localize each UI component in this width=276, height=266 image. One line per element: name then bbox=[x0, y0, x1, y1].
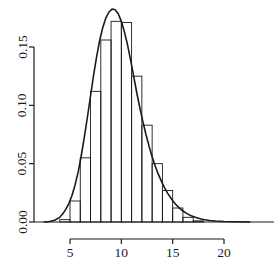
density-curve bbox=[44, 9, 249, 222]
x-axis-tick-label: 10 bbox=[115, 245, 129, 260]
histogram-bar bbox=[183, 217, 193, 222]
y-axis-tick-label: 0.15 bbox=[15, 35, 30, 59]
histogram-bar bbox=[162, 191, 172, 223]
x-axis: 5101520 bbox=[67, 239, 231, 260]
x-axis-tick-label: 20 bbox=[217, 245, 231, 260]
histogram-bar bbox=[121, 23, 131, 223]
histogram-density-plot: 0.000.050.100.155101520 bbox=[0, 0, 276, 266]
histogram-bar bbox=[60, 220, 70, 222]
histogram-bar bbox=[91, 91, 101, 222]
x-axis-tick-label: 15 bbox=[166, 245, 180, 260]
histogram-bar bbox=[111, 21, 121, 222]
histogram-bar bbox=[80, 158, 90, 222]
x-axis-tick-label: 5 bbox=[67, 245, 74, 260]
histogram-bar bbox=[132, 76, 142, 222]
y-axis-tick-label: 0.10 bbox=[15, 93, 30, 117]
histogram-bar bbox=[70, 201, 80, 222]
histogram-bars bbox=[60, 21, 204, 222]
y-axis-tick-label: 0.05 bbox=[15, 152, 30, 176]
histogram-bar bbox=[193, 221, 203, 222]
y-axis: 0.000.050.100.15 bbox=[15, 35, 35, 234]
y-axis-tick-label: 0.00 bbox=[15, 210, 30, 234]
histogram-bar bbox=[101, 40, 111, 222]
plot-canvas: 0.000.050.100.155101520 bbox=[0, 0, 276, 266]
